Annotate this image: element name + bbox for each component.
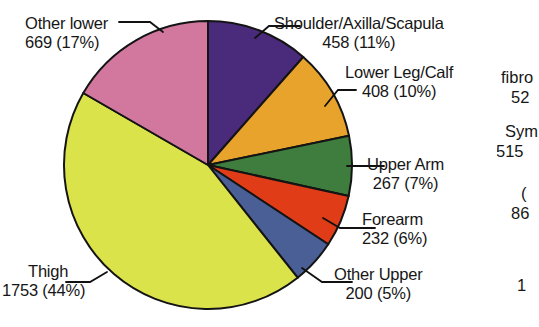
slice-label-other-upper: Other Upper 200 (5%): [334, 265, 423, 303]
slice-label-upper-arm-value: 267 (7%): [367, 174, 444, 193]
slice-label-other-upper-name: Other Upper: [334, 265, 423, 284]
clipped-text-fragment: 86: [511, 204, 529, 223]
slice-label-thigh-value: 1753 (44%): [2, 281, 85, 300]
slice-label-other-lower: Other lower 669 (17%): [25, 14, 108, 52]
pie-slice-group: [64, 21, 352, 309]
clipped-adjacent-figure: fibro 52 Sym 515 ( 86 1: [497, 0, 539, 327]
clipped-text-fragment: fibro: [501, 68, 533, 87]
slice-label-forearm-value: 232 (6%): [362, 229, 427, 248]
slice-label-other-lower-value: 669 (17%): [25, 33, 108, 52]
slice-label-upper-arm-name: Upper Arm: [367, 155, 444, 174]
slice-label-forearm-name: Forearm: [362, 210, 427, 229]
slice-label-other-upper-value: 200 (5%): [334, 284, 423, 303]
pie-chart-figure: Other lower 669 (17%) Shoulder/Axilla/Sc…: [0, 0, 539, 327]
slice-label-shoulder-value: 458 (11%): [274, 33, 444, 52]
clipped-text-fragment: (: [521, 184, 527, 203]
slice-label-lower-leg-calf: Lower Leg/Calf 408 (10%): [345, 63, 453, 101]
slice-label-thigh-name: Thigh: [2, 262, 85, 281]
clipped-text-fragment: 1: [517, 276, 526, 295]
slice-label-forearm: Forearm 232 (6%): [362, 210, 427, 248]
slice-label-shoulder-name: Shoulder/Axilla/Scapula: [274, 14, 444, 33]
slice-label-other-lower-name: Other lower: [25, 14, 108, 33]
slice-label-thigh: Thigh 1753 (44%): [2, 262, 85, 300]
clipped-text-fragment: 52: [511, 88, 529, 107]
slice-label-shoulder-axilla-scapula: Shoulder/Axilla/Scapula 458 (11%): [274, 14, 444, 52]
slice-label-lower-leg-value: 408 (10%): [345, 82, 453, 101]
clipped-text-fragment: 515: [497, 142, 524, 161]
slice-label-lower-leg-name: Lower Leg/Calf: [345, 63, 453, 82]
slice-label-upper-arm: Upper Arm 267 (7%): [367, 155, 444, 193]
clipped-text-fragment: Sym: [505, 122, 538, 141]
